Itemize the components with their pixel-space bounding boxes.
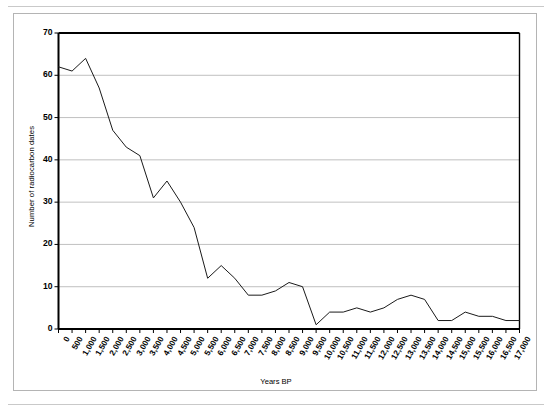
figure-root: Number of radiocarbon dates 010203040506… — [0, 0, 552, 413]
top-divider-rule — [8, 6, 544, 7]
bottom-divider-rule — [8, 404, 544, 405]
chart-outer-frame — [13, 13, 537, 391]
